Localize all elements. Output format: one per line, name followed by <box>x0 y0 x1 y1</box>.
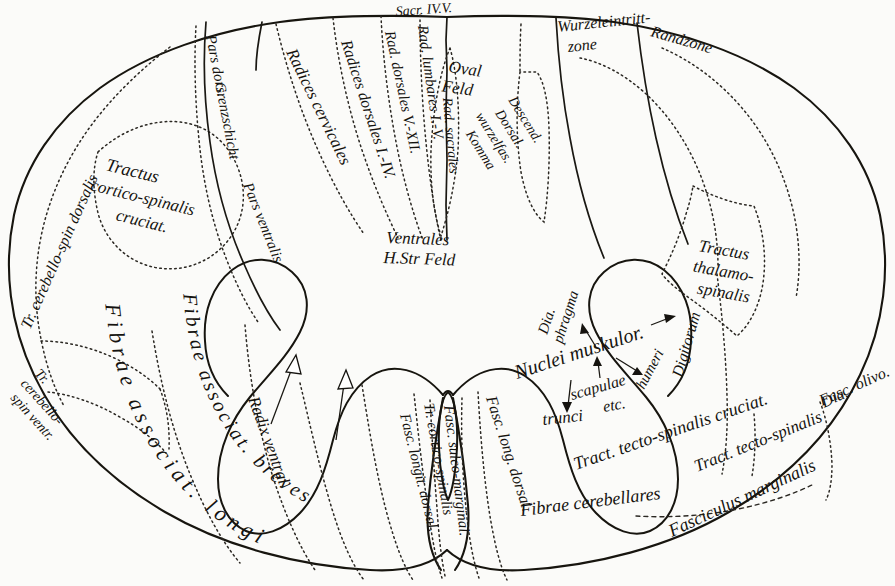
label-ventrales-h-str-feld: Ventrales H.Str Feld <box>382 228 457 270</box>
boundary-fasc-olivo <box>820 402 832 500</box>
label-trunci: trunci <box>541 406 584 429</box>
label-fasc-olivo-word: Fasc. olivo. <box>815 363 891 409</box>
label-pars-ventralis: Pars ventralis <box>240 179 287 264</box>
arrow-to-scapulae <box>593 356 602 378</box>
label-diaphragma: Dia. phragma <box>533 283 581 346</box>
divider-right-randzone-outer <box>637 23 688 244</box>
figure-container: Tr. cerebello-spin dorsalis Tractus cort… <box>0 0 895 586</box>
label-randzone: Randzone <box>648 22 714 56</box>
label-tract-tecto-spinalis-cruciat: Tract. tecto-spinalis cruciat. <box>571 388 770 473</box>
spinal-cord-diagram: Tr. cerebello-spin dorsalis Tractus cort… <box>0 0 895 586</box>
divider-right-wurzel-randzone <box>556 18 604 258</box>
label-descend-dorsal-wurzelfas-komma: Descend. Dorsal. wurzelfas. Komma <box>458 90 547 175</box>
label-fasciculus-marginalis: Fasciculus marginalis <box>664 455 818 541</box>
label-ventrales-line1: Ventrales <box>386 228 450 249</box>
label-fibrae-cerebellares: Fibrae cerebellares <box>518 483 662 520</box>
label-tractus-cortico-spinalis-cruciat: Tractus cortico-spinalis cruciat. <box>83 152 203 242</box>
boundary-radix-ventral-lane <box>300 383 364 580</box>
open-arrow-left <box>271 355 301 424</box>
label-ventrales-line2: H.Str Feld <box>382 248 456 270</box>
label-tractus-thalamo-spinalis: Tractus thalamo- spinalis <box>688 236 759 307</box>
boundary-komma-field <box>517 72 549 222</box>
boundary-komma-stem <box>520 24 521 72</box>
label-etc: etc. <box>602 394 627 415</box>
open-arrow-right <box>336 370 353 440</box>
label-wurzel-line2: zone <box>566 35 598 55</box>
boundary-wurzeleintrittzone <box>580 58 718 266</box>
label-wurzel-line1: Wurzeleintritt- <box>557 8 652 35</box>
open-arrows-group <box>271 355 353 440</box>
label-tr-cerebello-spin-ventr: Tr. cerebello- spin ventr. <box>5 364 83 443</box>
boundary-cerebello-ventr-upper <box>41 341 160 389</box>
label-tr-cerebello-spin-dorsalis: Tr. cerebello-spin dorsalis <box>17 172 101 332</box>
label-digitorum: Digitorum <box>668 310 704 380</box>
label-oval-line2: Feld <box>440 76 475 99</box>
gray-matter-left-horn <box>205 260 443 534</box>
divider-left-top-short <box>256 22 262 70</box>
label-grenzschicht: Grenzschicht <box>212 81 243 162</box>
arrow-to-digitorum <box>651 314 676 325</box>
label-radices-cervicales: Radices cervicales <box>282 45 355 169</box>
label-fasc-long-dorsal: Fasc. long. dorsal. <box>482 393 537 514</box>
